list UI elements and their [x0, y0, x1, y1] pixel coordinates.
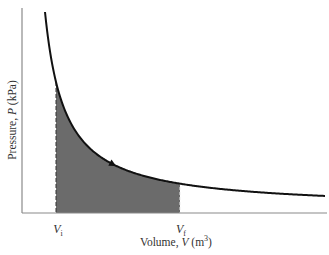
y-axis-label: Pressure, P (kPa): [6, 80, 18, 160]
work-shaded-area: [56, 82, 180, 213]
tick-label-vf: Vf: [176, 222, 186, 238]
tick-label-vi: Vi: [53, 222, 63, 238]
pv-chart: [0, 0, 329, 255]
